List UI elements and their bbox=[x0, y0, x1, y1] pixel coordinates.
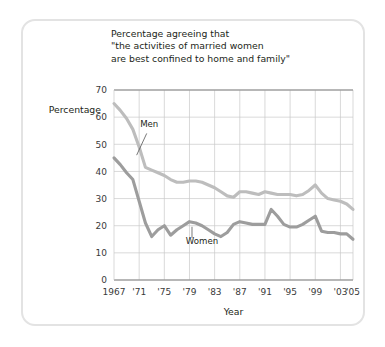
y-tick-label-30: 30 bbox=[96, 194, 108, 204]
x-tick-label-1987: '87 bbox=[233, 287, 247, 297]
x-tick-label-1983: '83 bbox=[208, 287, 222, 297]
y-tick-label-0: 0 bbox=[101, 275, 107, 285]
x-tick-label-1975: '75 bbox=[157, 287, 171, 297]
chart-title-line-1: "the activities of married women bbox=[111, 40, 264, 51]
chart-title-line-2: are best confined to home and family" bbox=[111, 53, 290, 64]
figure-frame: Percentage agreeing that"the activities … bbox=[21, 19, 365, 326]
x-axis-title: Year bbox=[223, 306, 244, 317]
x-tick-label-1999: '99 bbox=[308, 287, 322, 297]
x-tick-label-1967: 1967 bbox=[103, 287, 126, 297]
x-tick-label-1979: '79 bbox=[183, 287, 197, 297]
series-label-women: Women bbox=[186, 236, 218, 246]
x-tick-label-1995: '95 bbox=[283, 287, 297, 297]
y-tick-label-10: 10 bbox=[96, 248, 108, 258]
x-tick-label-1991: '91 bbox=[258, 287, 272, 297]
y-tick-label-70: 70 bbox=[96, 85, 108, 95]
chart-title-line-0: Percentage agreeing that bbox=[111, 28, 229, 39]
y-tick-label-50: 50 bbox=[96, 140, 108, 150]
series-label-men: Men bbox=[140, 119, 158, 129]
x-tick-label-1971: '71 bbox=[132, 287, 146, 297]
y-tick-label-40: 40 bbox=[96, 167, 108, 177]
x-tick-label-2005: '05 bbox=[346, 287, 360, 297]
chart-svg: Percentage agreeing that"the activities … bbox=[23, 21, 367, 328]
y-axis-title: Percentage bbox=[49, 104, 102, 115]
y-tick-label-20: 20 bbox=[96, 221, 108, 231]
